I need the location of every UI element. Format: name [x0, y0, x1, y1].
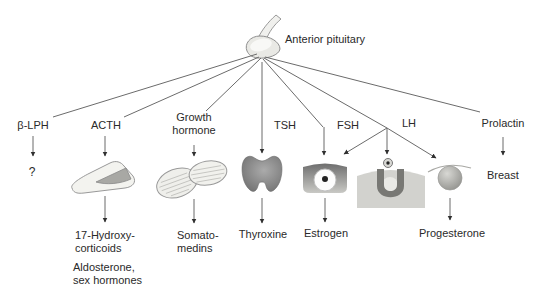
line-to-acth [124, 57, 259, 117]
line-to-growth-hormone [206, 58, 261, 111]
acth-label: ACTH [91, 119, 121, 132]
tsh-label: TSH [274, 119, 296, 132]
bone-muscle-illustration [152, 158, 228, 203]
adrenal-gland-illustration [72, 162, 135, 194]
corpus-luteum-illustration [428, 165, 471, 190]
released-ovum-dot [386, 161, 389, 164]
growth-hormone-label: Growth hormone [172, 111, 215, 137]
endocrine-diagram: Anterior pituitary β-LPH ACTH Growth hor… [0, 0, 540, 297]
ovulation-illustration [357, 156, 425, 208]
lh-label: LH [402, 117, 416, 130]
unknown-product-label: ? [29, 166, 36, 179]
follicle-ovum-dot [322, 176, 328, 182]
arrow-lh-to-corpus-luteum [387, 128, 436, 158]
beta-lph-label: β-LPH [17, 119, 48, 132]
line-to-beta-lph [53, 54, 257, 117]
anterior-pituitary-gland-illustration [246, 15, 281, 58]
hydroxycorticoids-label: 17-Hydroxy- corticoids [75, 229, 135, 255]
line-to-prolactin [265, 57, 480, 112]
aldosterone-label: Aldosterone, sex hormones [73, 261, 142, 287]
breast-label: Breast [487, 169, 519, 182]
somatomedins-label: Somato- medins [177, 229, 219, 255]
thyroxine-label: Thyroxine [239, 228, 287, 241]
anterior-pituitary-label: Anterior pituitary [285, 33, 365, 46]
line-to-lh [264, 58, 387, 128]
estrogen-label: Estrogen [304, 227, 348, 240]
thyroid-gland-illustration [242, 156, 282, 191]
ovarian-follicle-illustration [303, 164, 347, 194]
prolactin-label: Prolactin [482, 117, 525, 130]
progesterone-label: Progesterone [419, 227, 485, 240]
fsh-label: FSH [337, 119, 359, 132]
corpus-luteum-body [438, 166, 462, 190]
arrows [33, 62, 503, 223]
